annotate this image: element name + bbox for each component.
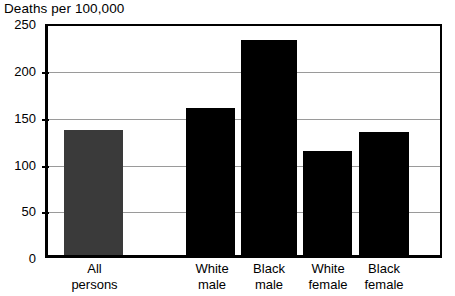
bar-white-male[interactable]	[186, 108, 235, 255]
bar-chart: Deaths per 100,000 250 200 150 100 50 0	[0, 0, 455, 296]
bar-all-persons[interactable]	[64, 130, 123, 255]
bar-white-female[interactable]	[303, 151, 352, 255]
y-axis-tick-label-250: 250	[14, 18, 36, 31]
bar-black-male[interactable]	[241, 40, 297, 255]
y-axis-tick-label-200: 200	[14, 65, 36, 78]
bar-group	[48, 26, 440, 255]
y-axis-tick-label-150: 150	[14, 112, 36, 125]
y-axis-tick-label-50: 50	[22, 205, 36, 218]
y-axis-tick-label-100: 100	[14, 159, 36, 172]
plot-area	[45, 24, 442, 258]
y-axis-label-group: 250 200 150 100 50 0	[0, 0, 45, 296]
x-axis-label-group: All persons White male Black male White …	[0, 258, 455, 296]
bar-black-female[interactable]	[359, 132, 409, 255]
x-axis-label-all-persons: All persons	[52, 261, 137, 292]
x-axis-label-black-female: Black female	[343, 261, 425, 292]
